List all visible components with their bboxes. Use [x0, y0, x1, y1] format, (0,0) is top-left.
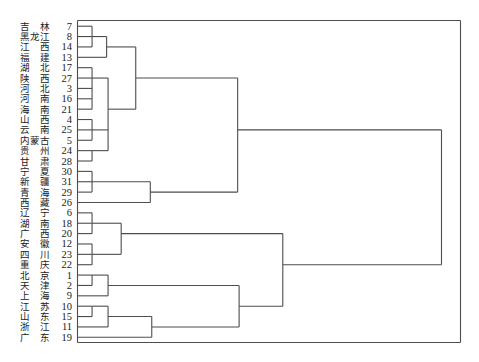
dendrogram-tree — [0, 0, 479, 362]
dendrogram-chart: 吉林7黑龙江8江西14福建13湖北17陕西27河北3河南16海南21山西4云南2… — [0, 0, 479, 362]
